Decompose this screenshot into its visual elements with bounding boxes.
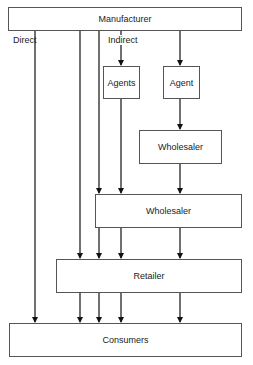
retailer-label: Retailer (133, 271, 164, 281)
agent-label: Agent (170, 78, 194, 88)
wholesaler-upper-label: Wholesaler (158, 142, 203, 152)
wholesaler-lower-label: Wholesaler (146, 206, 191, 216)
diagram-arrows (0, 0, 253, 365)
agent-box: Agent (163, 66, 200, 99)
manufacturer-box: Manufacturer (8, 7, 242, 31)
indirect-label: Indirect (107, 35, 139, 45)
wholesaler-lower-box: Wholesaler (95, 194, 242, 228)
manufacturer-label: Manufacturer (98, 14, 151, 24)
consumers-box: Consumers (9, 323, 242, 357)
wholesaler-upper-box: Wholesaler (139, 130, 222, 164)
direct-label: Direct (13, 35, 37, 45)
agents-label: Agents (107, 78, 135, 88)
retailer-box: Retailer (56, 259, 242, 293)
consumers-label: Consumers (102, 335, 148, 345)
agents-box: Agents (103, 66, 140, 99)
